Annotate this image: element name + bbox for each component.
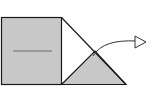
triangle-flap (62, 51, 127, 85)
folding-diagram (0, 0, 150, 96)
arrowhead-icon (135, 36, 146, 48)
curved-arrow-shaft (93, 41, 136, 56)
